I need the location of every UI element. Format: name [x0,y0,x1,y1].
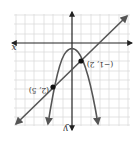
y-axis-label: y [63,124,70,134]
graph-figure: x y (−1, 2) (2, 5) [0,0,139,141]
intersection-point-1 [78,58,83,63]
point-label-1: (−1, 2) [87,60,114,69]
intersection-point-2 [50,84,55,89]
point-label-2: (2, 5) [29,86,49,95]
x-axis-label: x [11,43,16,53]
